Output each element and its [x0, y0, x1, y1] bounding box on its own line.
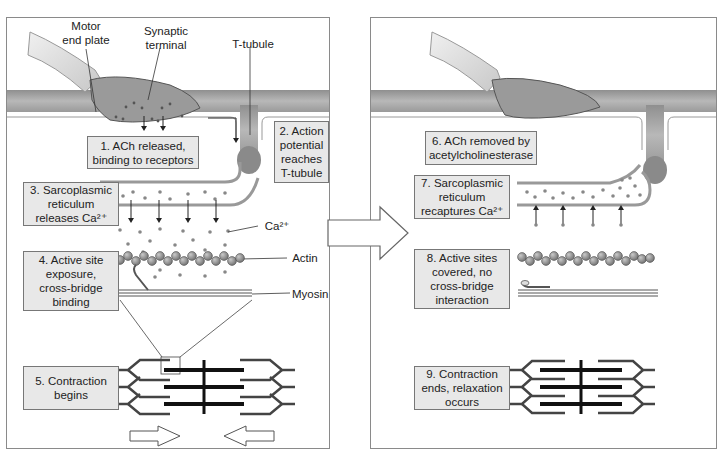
callout-ca: Ca²⁺ — [262, 219, 292, 233]
callout-myosin: Myosin — [292, 287, 328, 301]
step-1-label: 1. ACh released, binding to receptors — [87, 136, 199, 169]
actin-filament-right — [518, 252, 655, 266]
callout-synaptic-terminal: Synaptic terminal — [136, 24, 196, 52]
transition-arrow — [328, 207, 408, 259]
callout-motor-end-plate: Motor end plate — [56, 19, 116, 47]
step-2-label: 2. Action potential reaches T-tubule — [274, 121, 329, 183]
step-3-label: 3. Sarcoplasmic reticulum releases Ca²⁺ — [23, 182, 119, 226]
step-9-label: 9. Contraction ends, relaxation occurs — [414, 366, 510, 410]
step-5-label: 5. Contraction begins — [23, 366, 119, 410]
callout-t-tubule: T-tubule — [228, 37, 278, 51]
step-6-label: 6. ACh removed by acetylcholinesterase — [425, 131, 537, 165]
actin-filament-left — [108, 252, 245, 266]
step-4-label: 4. Active site exposure, cross-bridge bi… — [23, 251, 119, 311]
step-8-label: 8. Active sites covered, no cross-bridge… — [414, 249, 510, 309]
step-7-label: 7. Sarcoplasmic reticulum recaptures Ca²… — [414, 175, 510, 219]
callout-actin: Actin — [290, 251, 320, 265]
